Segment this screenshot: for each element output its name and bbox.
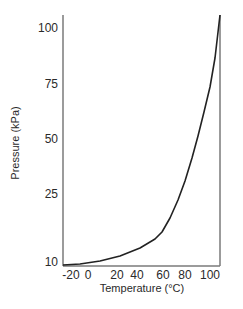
x-tick-labels: -20020406080100 [62,268,220,282]
pressure-curve [63,15,220,265]
plot-area [63,15,220,266]
x-tick-label: 100 [200,268,220,282]
x-axis-title: Temperature (°C) [100,282,184,294]
y-tick-label: 100 [38,21,58,35]
y-tick-label: 75 [45,77,59,91]
x-tick-label: -20 [62,268,80,282]
vapor-pressure-chart: 10075502510 -20020406080100 Pressure (kP… [0,0,243,309]
x-tick-label: 80 [178,268,192,282]
y-tick-label: 10 [45,255,59,269]
x-tick-label: 0 [85,268,92,282]
y-axis-title: Pressure (kPa) [9,106,21,179]
x-tick-label: 60 [156,268,170,282]
y-tick-labels: 10075502510 [38,21,58,269]
y-tick-label: 25 [45,187,59,201]
x-tick-label: 20 [110,268,124,282]
x-tick-label: 40 [130,268,144,282]
y-tick-label: 50 [45,132,59,146]
